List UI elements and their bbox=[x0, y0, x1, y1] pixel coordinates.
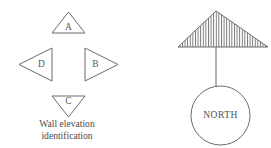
elevation-marker-c-label: C bbox=[65, 96, 71, 106]
wall-elevation-caption: Wall elevation identification bbox=[6, 118, 128, 141]
elevation-marker-a[interactable]: A bbox=[52, 12, 85, 33]
wall-elevation-symbol: A B C D bbox=[19, 12, 118, 117]
north-arrowhead-icon bbox=[178, 11, 268, 47]
wall-elevation-caption-line-1: Wall elevation bbox=[6, 118, 128, 130]
elevation-marker-d-label: D bbox=[38, 59, 45, 69]
figure-root: A B C D NORTH bbox=[0, 0, 271, 148]
elevation-marker-c[interactable]: C bbox=[52, 96, 85, 117]
elevation-marker-d[interactable]: D bbox=[19, 48, 52, 81]
elevation-marker-b[interactable]: B bbox=[85, 48, 118, 81]
north-arrow-symbol: NORTH bbox=[178, 11, 268, 145]
elevation-marker-a-label: A bbox=[65, 22, 72, 32]
elevation-marker-b-label: B bbox=[92, 59, 98, 69]
wall-elevation-caption-line-2: identification bbox=[6, 130, 128, 142]
north-label: NORTH bbox=[203, 110, 237, 120]
